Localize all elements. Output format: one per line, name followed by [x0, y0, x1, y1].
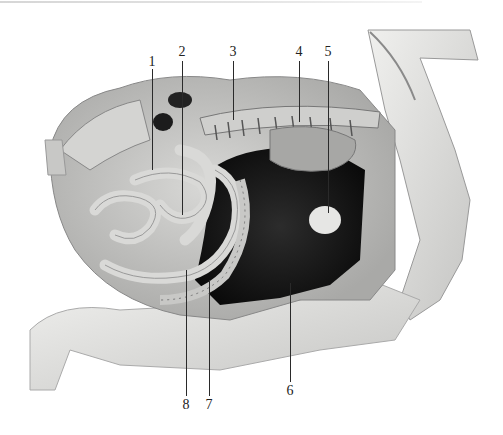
leader-line-5 [328, 61, 329, 213]
label-2: 2 [175, 45, 189, 59]
leader-line-7 [209, 280, 210, 396]
label-1: 1 [145, 55, 159, 69]
leader-line-3 [233, 61, 234, 120]
leader-line-2 [182, 61, 183, 215]
specimen-photo [0, 0, 503, 435]
leader-line-1 [152, 69, 153, 170]
label-7: 7 [202, 398, 216, 412]
label-5: 5 [321, 45, 335, 59]
leader-line-8 [186, 270, 187, 396]
label-8: 8 [179, 398, 193, 412]
label-4: 4 [292, 45, 306, 59]
label-6: 6 [283, 384, 297, 398]
leader-line-4 [299, 61, 300, 122]
leader-line-6 [290, 283, 291, 382]
label-3: 3 [226, 45, 240, 59]
